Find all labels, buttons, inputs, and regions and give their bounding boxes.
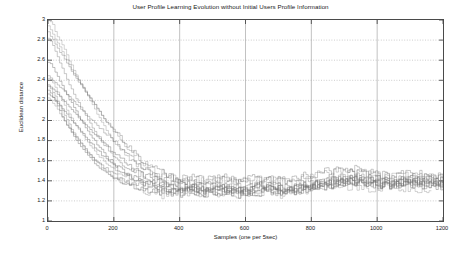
y-tick-label: 1.4 <box>25 177 45 183</box>
x-axis-label: Samples (one per 5sec) <box>47 234 444 240</box>
x-tick-label: 0 <box>32 225 62 231</box>
y-tick-label: 3 <box>25 16 45 22</box>
y-tick-label: 1.2 <box>25 197 45 203</box>
y-tick-label: 2.4 <box>25 76 45 82</box>
y-axis-label: Euclidean distance <box>18 47 24 167</box>
x-tick-label: 200 <box>98 225 128 231</box>
chart-figure: User Profile Learning Evolution without … <box>0 0 461 256</box>
x-tick-label: 400 <box>164 225 194 231</box>
chart-title: User Profile Learning Evolution without … <box>0 3 461 10</box>
x-tick-label: 600 <box>230 225 260 231</box>
y-tick-label: 2 <box>25 116 45 122</box>
y-tick-label: 1 <box>25 217 45 223</box>
y-tick-label: 2.8 <box>25 36 45 42</box>
x-tick-label: 1200 <box>427 225 457 231</box>
plot-svg <box>48 20 443 221</box>
y-tick-label: 1.6 <box>25 157 45 163</box>
x-tick-label: 800 <box>295 225 325 231</box>
x-tick-label: 1000 <box>361 225 391 231</box>
y-tick-label: 2.2 <box>25 96 45 102</box>
plot-area <box>47 19 444 222</box>
y-tick-label: 1.8 <box>25 136 45 142</box>
y-axis-tick-labels: 11.21.41.61.822.22.42.62.83 <box>22 19 45 222</box>
y-tick-label: 2.6 <box>25 56 45 62</box>
